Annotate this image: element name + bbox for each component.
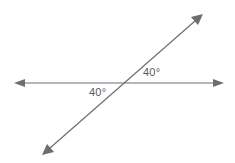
angle-label-upper-right: 40° — [143, 67, 160, 78]
geometry-figure: 40° 40° — [0, 0, 235, 163]
horizontal-transversal — [14, 79, 224, 87]
diagonal-transversal — [42, 14, 203, 155]
diagonal-line-segment — [50, 21, 195, 148]
right-arrowhead-icon — [213, 79, 224, 87]
intersecting-lines-svg — [0, 0, 235, 163]
left-arrowhead-icon — [14, 79, 25, 87]
angle-label-lower-left: 40° — [89, 87, 106, 98]
